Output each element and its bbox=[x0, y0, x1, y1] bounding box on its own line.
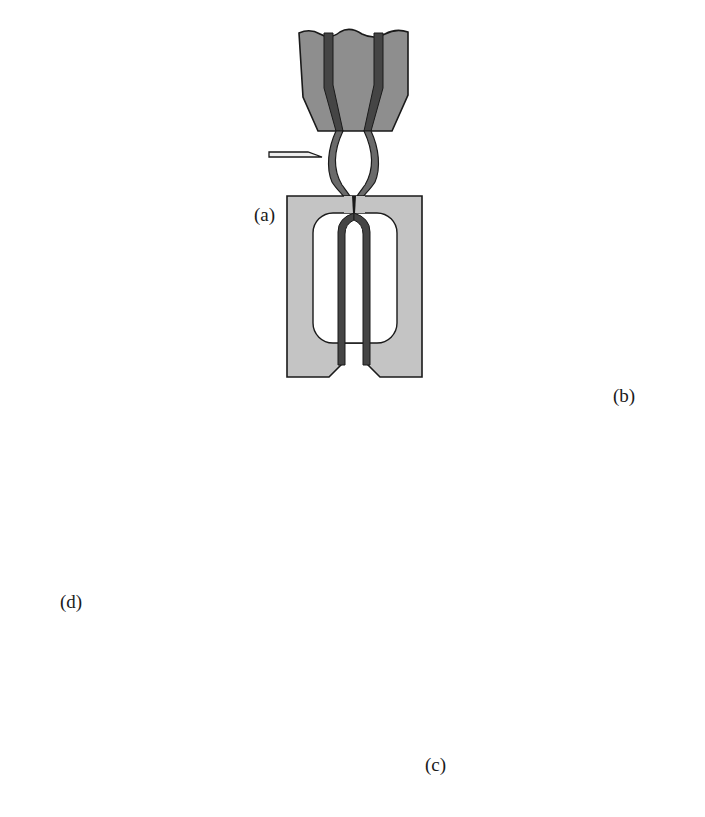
stage-label-a: (a) bbox=[254, 205, 275, 224]
extrusion-head bbox=[299, 29, 408, 131]
mold-a-cavity bbox=[313, 213, 397, 343]
stage-label-d: (d) bbox=[60, 592, 82, 611]
cutter-blade bbox=[269, 152, 322, 157]
stage-label-c: (c) bbox=[425, 755, 446, 774]
process-cycle-diagram bbox=[0, 0, 705, 817]
stage-a bbox=[269, 29, 422, 377]
stage-label-b: (b) bbox=[613, 386, 635, 405]
